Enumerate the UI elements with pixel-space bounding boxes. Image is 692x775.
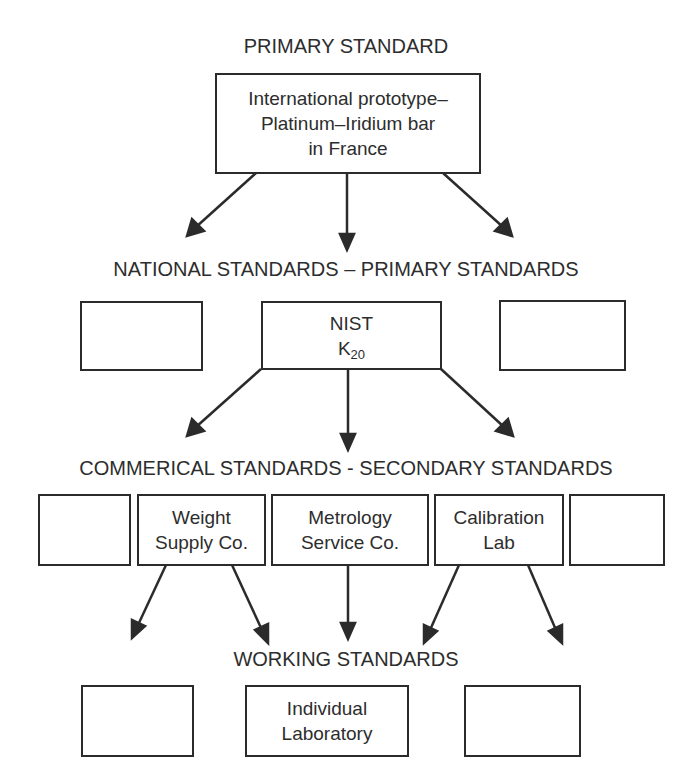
- primary-box-line-2: Platinum–Iridium bar: [261, 111, 435, 136]
- international-prototype-box: International prototype– Platinum–Iridiu…: [215, 73, 481, 174]
- commercial-standards-label: COMMERICAL STANDARDS - SECONDARY STANDAR…: [0, 457, 692, 480]
- primary-box-line-3: in France: [308, 136, 387, 161]
- individual-laboratory-box: Individual Laboratory: [245, 685, 409, 757]
- national-standards-label: NATIONAL STANDARDS – PRIMARY STANDARDS: [0, 258, 692, 281]
- calibration-line-1: Calibration: [454, 505, 545, 530]
- arrow-nist-to-commercial-left: [187, 369, 261, 436]
- arrow-nist-to-commercial-center: [341, 369, 355, 450]
- working-box-empty-left: [81, 685, 194, 757]
- weight-supply-line-2: Supply Co.: [155, 530, 248, 555]
- metrology-service-box: Metrology Service Co.: [271, 494, 429, 566]
- individual-lab-line-1: Individual: [287, 696, 367, 721]
- arrow-calibration-to-working-right: [528, 565, 562, 643]
- arrow-metrology-to-working: [341, 565, 355, 639]
- k20-label: K20: [338, 336, 365, 361]
- metrology-line-1: Metrology: [308, 505, 391, 530]
- arrow-calibration-to-working-left: [424, 565, 459, 643]
- metrology-line-2: Service Co.: [301, 530, 399, 555]
- commercial-box-empty-right: [569, 494, 665, 566]
- working-box-empty-right: [464, 685, 581, 757]
- calibration-lab-box: Calibration Lab: [434, 494, 564, 566]
- national-box-empty-left: [80, 301, 203, 371]
- arrow-weight-supply-to-working-right: [232, 565, 268, 643]
- arrow-primary-to-national-center: [340, 173, 354, 250]
- weight-supply-box: Weight Supply Co.: [137, 494, 266, 566]
- k-main: K: [338, 338, 351, 359]
- k-subscript: 20: [351, 347, 365, 362]
- nist-label: NIST: [330, 311, 373, 336]
- calibration-line-2: Lab: [483, 530, 515, 555]
- arrow-weight-supply-to-working-left: [132, 565, 166, 638]
- arrow-primary-to-national-left: [187, 173, 256, 236]
- arrow-primary-to-national-right: [443, 173, 512, 236]
- primary-standard-label: PRIMARY STANDARD: [0, 35, 692, 58]
- individual-lab-line-2: Laboratory: [282, 721, 373, 746]
- primary-box-line-1: International prototype–: [248, 86, 448, 111]
- commercial-box-empty-left: [38, 494, 131, 566]
- arrow-nist-to-commercial-right: [441, 369, 513, 436]
- working-standards-label: WORKING STANDARDS: [0, 648, 692, 671]
- national-box-empty-right: [499, 300, 626, 371]
- nist-k20-box: NIST K20: [261, 301, 442, 370]
- weight-supply-line-1: Weight: [172, 505, 231, 530]
